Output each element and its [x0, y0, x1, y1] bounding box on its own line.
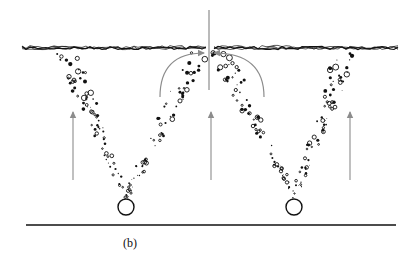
- left-source-nozzle: [118, 199, 134, 215]
- bubble-sources: [118, 199, 302, 215]
- left-circulation-arrow: [160, 53, 204, 97]
- figure-label: (b): [123, 236, 137, 251]
- water-surface: [22, 45, 398, 49]
- right-circulation-arrow: [214, 53, 264, 97]
- right-source-nozzle: [286, 199, 302, 215]
- bubble-plume-diagram: [0, 0, 413, 258]
- bubble-plumes: [56, 51, 354, 199]
